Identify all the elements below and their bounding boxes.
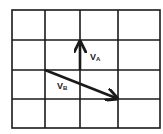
grid bbox=[12, 10, 160, 128]
vector-a-label: VA bbox=[90, 52, 101, 62]
vector-grid-diagram: VA VB bbox=[0, 0, 163, 134]
grid-border bbox=[12, 10, 160, 128]
vector-b-label: VB bbox=[57, 81, 68, 91]
